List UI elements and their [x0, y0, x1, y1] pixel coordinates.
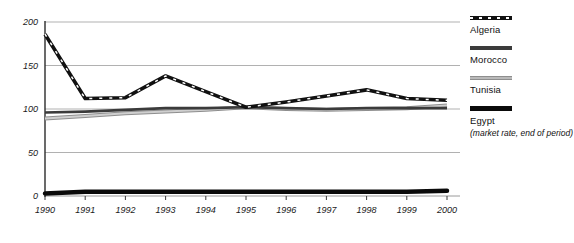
legend-entry-morocco: Morocco — [470, 46, 574, 66]
legend-swatch-tunisia — [470, 76, 512, 80]
x-tick-label: 2000 — [436, 205, 457, 215]
x-tick-label: 1992 — [115, 205, 135, 215]
chart-legend: Algeria Morocco Tunisia Egypt (market ra… — [470, 16, 574, 149]
x-tick-label: 1998 — [357, 205, 377, 215]
x-axis-tick-labels: 1990199119921993199419951996199719981999… — [35, 205, 457, 215]
legend-label-morocco: Morocco — [470, 54, 574, 66]
legend-label-algeria: Algeria — [470, 24, 574, 36]
x-tick-label: 1999 — [397, 205, 417, 215]
legend-entry-egypt: Egypt (market rate, end of period) — [470, 106, 574, 139]
legend-label-tunisia: Tunisia — [470, 84, 574, 96]
line-chart-svg: 050100150200 199019911992199319941995199… — [0, 0, 460, 243]
y-tick-label: 200 — [22, 17, 38, 27]
legend-swatch-egypt — [470, 106, 512, 111]
x-tick-label: 1990 — [35, 205, 55, 215]
x-axis-ticks — [45, 196, 447, 200]
plot-area: 050100150200 199019911992199319941995199… — [0, 0, 460, 243]
y-tick-label: 100 — [23, 104, 38, 114]
legend-entry-tunisia: Tunisia — [470, 76, 574, 96]
series-line-algeria — [45, 34, 447, 107]
legend-entry-algeria: Algeria — [470, 16, 574, 36]
series-line-algeria-base — [45, 34, 447, 107]
legend-swatch-algeria — [470, 16, 512, 20]
y-tick-label: 50 — [28, 148, 38, 158]
y-tick-label: 150 — [23, 61, 38, 71]
series-layer — [45, 34, 447, 193]
y-axis-tick-labels: 050100150200 — [22, 17, 38, 201]
x-tick-label: 1993 — [156, 205, 176, 215]
x-tick-label: 1991 — [75, 205, 95, 215]
x-tick-label: 1997 — [316, 205, 337, 215]
legend-label-egypt: Egypt — [470, 115, 574, 127]
y-tick-label: 0 — [33, 191, 38, 201]
legend-swatch-morocco — [470, 46, 512, 50]
series-line-egypt — [45, 191, 447, 194]
chart-figure: 050100150200 199019911992199319941995199… — [0, 0, 574, 243]
legend-note: (market rate, end of period) — [470, 128, 574, 139]
x-tick-label: 1995 — [236, 205, 257, 215]
x-tick-label: 1996 — [276, 205, 296, 215]
x-tick-label: 1994 — [196, 205, 216, 215]
